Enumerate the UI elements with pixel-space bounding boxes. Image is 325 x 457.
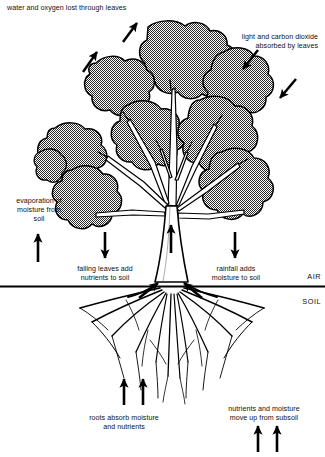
label-roots-absorb-line1: roots absorb moisture — [63, 414, 185, 423]
label-subsoil-line1: nutrients and moisture — [203, 405, 325, 414]
zone-label-soil: SOIL — [302, 297, 321, 306]
label-falling-leaves-line2: nutrients to soil — [48, 274, 162, 283]
label-light-co2-line1: light and carbon dioxide — [140, 33, 318, 42]
tree-cycle-diagram — [0, 0, 325, 457]
label-subsoil-line2: move up from subsoil — [203, 414, 325, 423]
label-evaporation-line3: soil — [2, 215, 76, 224]
label-light-co2-line2: absorbed by leaves — [140, 42, 318, 51]
label-falling-leaves-line1: falling leaves add — [48, 265, 162, 274]
label-rainfall-line2: moisture to soil — [186, 274, 286, 283]
label-water-oxygen-lost: water and oxygen lost through leaves — [7, 4, 126, 13]
label-evaporation-line2: moisture from — [2, 206, 76, 215]
zone-label-air: AIR — [307, 272, 321, 281]
label-evaporation-line1: evaporation of — [2, 197, 76, 206]
label-roots-absorb-line2: and nutrients — [63, 423, 185, 432]
label-rainfall-line1: rainfall adds — [186, 265, 286, 274]
